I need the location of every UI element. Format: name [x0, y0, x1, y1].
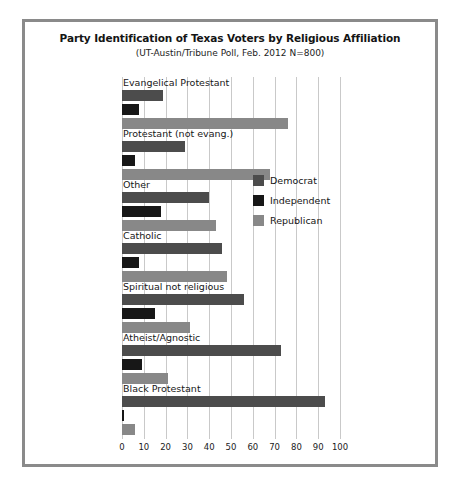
bar-row — [122, 345, 340, 356]
bar-stack — [122, 243, 340, 285]
x-tick-label: 10 — [138, 442, 149, 452]
category-label: Atheist/Agnostic — [123, 332, 200, 344]
x-tick-label: 40 — [204, 442, 215, 452]
legend-label: Independent — [270, 195, 330, 206]
bar-democrat — [122, 345, 281, 356]
chart-subtitle: (UT-Austin/Tribune Poll, Feb. 2012 N=800… — [25, 47, 435, 60]
page-title: Party Identification of Texas Voters by … — [25, 32, 435, 45]
bar-independent — [122, 410, 124, 421]
plot-area: Evangelical ProtestantProtestant (not ev… — [122, 77, 340, 439]
bar-stack — [122, 90, 340, 132]
x-tick-label: 60 — [247, 442, 258, 452]
bar-stack — [122, 396, 340, 438]
x-tick-label: 90 — [313, 442, 324, 452]
category-label: Protestant (not evang.) — [123, 128, 233, 140]
bar-row — [122, 294, 340, 305]
chart-legend: DemocratIndependentRepublican — [253, 170, 363, 230]
legend-swatch-icon — [253, 195, 264, 206]
bar-republican — [122, 424, 135, 435]
bar-independent — [122, 308, 155, 319]
bar-row — [122, 410, 340, 421]
bar-stack — [122, 294, 340, 336]
bar-row — [122, 90, 340, 101]
x-tick-label: 0 — [119, 442, 124, 452]
bar-row — [122, 424, 340, 435]
bar-row — [122, 396, 340, 407]
bar-row — [122, 141, 340, 152]
x-tick-label: 100 — [332, 442, 348, 452]
bar-row — [122, 155, 340, 166]
bar-row — [122, 257, 340, 268]
category-label: Evangelical Protestant — [123, 77, 229, 89]
legend-swatch-icon — [253, 215, 264, 226]
legend-swatch-icon — [253, 175, 264, 186]
chart-page: Party Identification of Texas Voters by … — [0, 0, 460, 489]
bar-independent — [122, 104, 139, 115]
x-tick-label: 70 — [269, 442, 280, 452]
gridline-100 — [340, 77, 341, 439]
bar-row — [122, 359, 340, 370]
x-axis: 0102030405060708090100 — [122, 442, 340, 460]
bar-stack — [122, 345, 340, 387]
bar-row — [122, 104, 340, 115]
category-label: Catholic — [123, 230, 162, 242]
bar-democrat — [122, 294, 244, 305]
legend-item: Republican — [253, 210, 363, 230]
x-tick-label: 20 — [160, 442, 171, 452]
category-label: Other — [123, 179, 150, 191]
bar-democrat — [122, 243, 222, 254]
x-tick-label: 30 — [182, 442, 193, 452]
bar-independent — [122, 359, 142, 370]
category-label: Spiritual not religious — [123, 281, 224, 293]
x-tick-label: 50 — [226, 442, 237, 452]
chart-frame: Party Identification of Texas Voters by … — [22, 19, 438, 467]
bar-independent — [122, 257, 139, 268]
bar-independent — [122, 155, 135, 166]
bar-democrat — [122, 192, 209, 203]
bar-row — [122, 243, 340, 254]
bar-democrat — [122, 396, 325, 407]
legend-label: Republican — [270, 215, 322, 226]
legend-item: Independent — [253, 190, 363, 210]
x-tick-label: 80 — [291, 442, 302, 452]
title-block: Party Identification of Texas Voters by … — [25, 32, 435, 60]
legend-label: Democrat — [270, 175, 317, 186]
bar-democrat — [122, 141, 185, 152]
legend-item: Democrat — [253, 170, 363, 190]
bar-democrat — [122, 90, 163, 101]
bar-row — [122, 308, 340, 319]
bar-independent — [122, 206, 161, 217]
category-label: Black Protestant — [123, 383, 201, 395]
